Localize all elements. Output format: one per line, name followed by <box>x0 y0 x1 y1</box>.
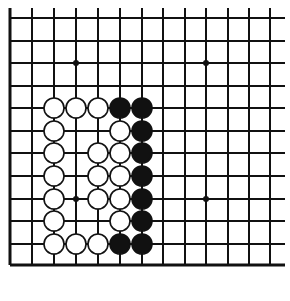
white-stone <box>88 166 108 186</box>
white-stone <box>44 166 64 186</box>
white-stone <box>88 234 108 254</box>
white-stone <box>66 234 86 254</box>
black-stone <box>110 234 130 254</box>
white-stone <box>44 211 64 231</box>
black-stone <box>132 211 152 231</box>
white-stone <box>110 211 130 231</box>
white-stone <box>44 121 64 141</box>
white-stone <box>88 189 108 209</box>
black-stone <box>132 121 152 141</box>
black-stone <box>110 98 130 118</box>
white-stone <box>66 98 86 118</box>
white-stone <box>44 189 64 209</box>
black-stone <box>132 143 152 163</box>
go-board-diagram <box>0 0 290 301</box>
white-stone <box>110 121 130 141</box>
black-stone <box>132 98 152 118</box>
white-stone <box>110 143 130 163</box>
white-stone <box>44 143 64 163</box>
white-stone <box>88 143 108 163</box>
hoshi-point <box>73 196 79 202</box>
hoshi-point <box>203 60 209 66</box>
black-stone <box>132 189 152 209</box>
hoshi-point <box>203 196 209 202</box>
white-stone <box>110 166 130 186</box>
white-stone <box>88 98 108 118</box>
black-stone <box>132 166 152 186</box>
hoshi-point <box>73 60 79 66</box>
white-stone <box>110 189 130 209</box>
white-stone <box>44 234 64 254</box>
white-stone <box>44 98 64 118</box>
black-stone <box>132 234 152 254</box>
